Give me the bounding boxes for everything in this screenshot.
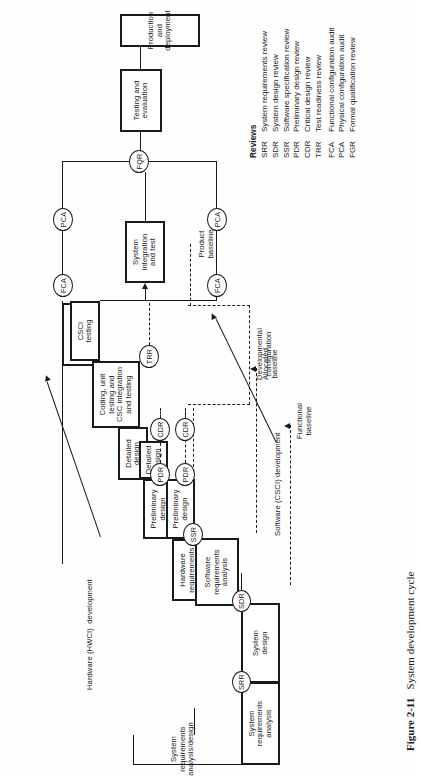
review-pdr-sw[interactable]: PDR [175, 463, 195, 486]
legend-rows: SRRSystem requirements reviewSDRSystem d… [260, 8, 358, 158]
legend-item: FCAFunctional configuration audit [327, 8, 338, 158]
box-system-requirements-analysis[interactable]: System requirements analysis [241, 682, 280, 765]
rail-pdr-hw [160, 443, 161, 463]
pca-to-fqr-left [62, 161, 63, 209]
legend-item-text: Critical design review [303, 56, 314, 132]
box-production-and-deployment[interactable]: Production and deployment [120, 14, 200, 47]
functional-baseline-rail [290, 425, 291, 585]
legend-item-text: Preliminary design review [292, 41, 303, 132]
figure-caption: Figure 2-11 System development cycle [392, 572, 421, 762]
legend-item: SSRSoftware specification review [282, 8, 293, 158]
figure-number: Figure 2-11 [404, 698, 416, 751]
review-srr[interactable]: SRR [232, 671, 251, 693]
hardware-track-label: Hardware (HWCI) development [86, 579, 95, 690]
legend-item-abbr: PCA [337, 132, 348, 158]
legend-item-text: System design review [271, 54, 282, 132]
review-cdr-sw[interactable]: CDR [175, 418, 195, 441]
fca-pca-link-right [216, 230, 217, 275]
hardware-track-arrowhead [43, 374, 51, 382]
fqr-to-testing [140, 131, 141, 151]
legend-item-abbr: FCA [327, 132, 338, 158]
legend-item-abbr: CDR [303, 132, 314, 158]
legend-item: FGRFormal qualification review [348, 8, 359, 158]
system-phase-bracket-top [133, 735, 134, 765]
developmental-configuration-label: Developmental configuration [256, 323, 273, 385]
legend-item-abbr: TRR [314, 132, 325, 158]
software-track-label: Software (CSCI) development [274, 432, 283, 536]
legend-item: TRRTest readiness review [314, 8, 325, 158]
legend-item: PDRPreliminary design review [292, 8, 303, 158]
review-sdr[interactable]: SDR [232, 590, 251, 612]
csci-riser [100, 300, 217, 301]
integration-input-arrow [142, 283, 148, 289]
review-pca-left[interactable]: PCA [53, 208, 73, 231]
legend-item-text: Formal qualification review [348, 37, 359, 132]
system-phase-label: System requirements analysis/design [170, 719, 196, 779]
review-fca-right[interactable]: FCA [207, 274, 227, 297]
integration-input-line [145, 289, 146, 301]
box-system-integration-and-test[interactable]: System integration and test [125, 221, 165, 283]
rail-cdr-hw [160, 408, 161, 418]
box-coding-unit-csc-integration[interactable]: Coding, unit testing and CSC integration… [92, 361, 140, 428]
review-fqr[interactable]: FQR [129, 150, 149, 173]
legend-item-text: System requirements review [260, 31, 271, 132]
legend-item-abbr: PDR [292, 132, 303, 158]
review-trr[interactable]: TRR [139, 345, 159, 368]
review-cdr-hw[interactable]: CDR [150, 418, 170, 441]
fca-pca-link-left [62, 230, 63, 275]
legend-item: SDRSystem design review [271, 8, 282, 158]
rail-cdr-sw [185, 408, 186, 418]
legend-item-abbr: SSR [282, 132, 293, 158]
box-system-design[interactable]: System design [241, 603, 280, 683]
box-csci-testing[interactable]: CSCI testing [70, 301, 100, 361]
devcfg-bracket-left [188, 404, 250, 405]
allocated-baseline-rail [256, 368, 257, 533]
pca-to-fqr-right [216, 161, 217, 209]
reviews-legend: Reviews SRRSystem requirements reviewSDR… [248, 8, 359, 158]
legend-item-abbr: SRR [260, 132, 271, 158]
legend-item-text: Test readiness review [314, 55, 325, 132]
legend-title: Reviews [248, 8, 259, 158]
rail-trr [149, 303, 150, 345]
functional-baseline-label: Functional baseline [296, 391, 313, 451]
functional-baseline-arrow [284, 423, 290, 429]
review-pdr-hw[interactable]: PDR [150, 463, 170, 486]
caption-gap [404, 689, 416, 697]
integration-to-fqr [145, 172, 146, 221]
legend-item-abbr: FGR [348, 132, 359, 158]
caption-text: System development cycle [404, 572, 416, 690]
box-testing-and-evaluation[interactable]: Testing and evaluation [120, 69, 162, 132]
legend-item: SRRSystem requirements review [260, 8, 271, 158]
legend-item-text: Functional configuration audit [327, 27, 338, 132]
review-ssr[interactable]: SSR [183, 523, 203, 546]
devcfg-bracket-right [188, 305, 250, 306]
legend-item: CDRCritical design review [303, 8, 314, 158]
review-fca-left[interactable]: FCA [53, 274, 73, 297]
legend-item-text: Software specification review [282, 29, 293, 132]
legend-item: PCAPhysical configuration audit [337, 8, 348, 158]
product-baseline-rail [190, 244, 191, 306]
review-pca-right[interactable]: PCA [207, 208, 227, 231]
legend-item-abbr: SDR [271, 132, 282, 158]
testing-to-production [140, 46, 141, 70]
legend-item-text: Physical configuration audit [337, 35, 348, 132]
